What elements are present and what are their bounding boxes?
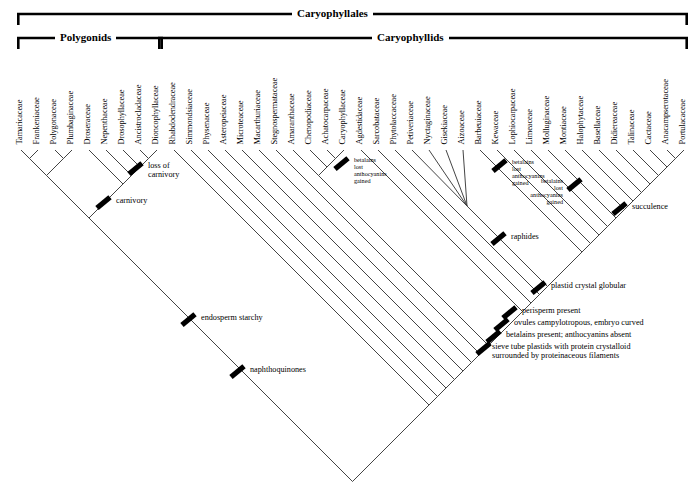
character-bar-betalains-1 — [333, 156, 349, 171]
annotation-label-carnivory: carnivory — [116, 196, 147, 205]
annotation-label-ovules: ovules campylotropous, embryo curved — [514, 318, 644, 327]
character-bar-succulence — [611, 201, 627, 216]
character-bar-betalains-2 — [491, 158, 507, 173]
character-bar-layer — [0, 0, 698, 492]
cladogram-figure: CaryophyllalesPolygonidsCaryophyllids Ta… — [0, 0, 698, 492]
annotation-label-sieve-tube: sieve tube plastids with protein crystal… — [492, 342, 630, 360]
character-bar-plastid-crystal — [530, 280, 546, 295]
annotation-label-naphthoquinones: naphthoquinones — [250, 365, 306, 374]
annotation-label-plastid-crystal: plastid crystal globular — [551, 281, 626, 290]
character-bar-loss-of-carnivory — [127, 161, 143, 176]
character-bar-betalains-3 — [566, 177, 582, 192]
annotation-label-raphides: raphides — [511, 232, 539, 241]
annotation-label-betalains-present: betalains present; anthocyanins absent — [506, 330, 631, 339]
annotation-label-betalains-3: betalains lost anthocyanins gained — [530, 178, 563, 206]
character-bar-endosperm-starchy — [180, 312, 196, 327]
annotation-label-succulence: succulence — [632, 202, 668, 211]
character-bar-sieve-tube — [475, 341, 491, 356]
character-bar-naphthoquinones — [229, 364, 245, 379]
annotation-label-perisperm: perisperm present — [522, 306, 580, 315]
character-bar-raphides — [490, 231, 506, 246]
annotation-label-betalains-1: betalains lost anthocyanins gained — [354, 157, 387, 185]
annotation-label-endosperm-starchy: endosperm starchy — [201, 313, 263, 322]
annotation-label-loss-of-carnivory: loss of carnivory — [148, 161, 179, 179]
character-bar-carnivory — [95, 195, 111, 210]
